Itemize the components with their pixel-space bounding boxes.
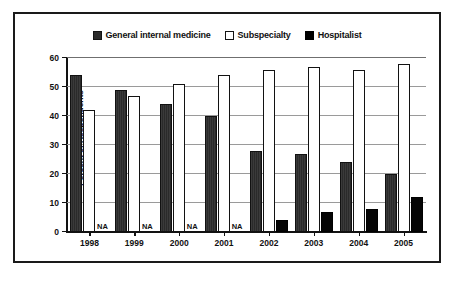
x-tick-mark-1998 bbox=[89, 232, 90, 236]
x-tick-label-2001: 2001 bbox=[202, 238, 247, 248]
x-tick-mark-1999 bbox=[134, 232, 135, 236]
bar-hosp-2004[interactable] bbox=[366, 209, 378, 232]
bar-group-2002: 2002 bbox=[247, 58, 292, 232]
bar-group-1999: NA1999 bbox=[112, 58, 157, 232]
bars-row bbox=[336, 58, 381, 232]
bars-row: NA bbox=[67, 58, 112, 232]
x-tick-mark-2004 bbox=[359, 232, 360, 236]
plot-area: 0102030405060 NA1998NA1999NA2000NA200120… bbox=[67, 58, 426, 232]
bar-gim-2002[interactable] bbox=[250, 151, 262, 232]
bar-gim-2005[interactable] bbox=[385, 174, 397, 232]
bars-row: NA bbox=[157, 58, 202, 232]
bar-group-2003: 2003 bbox=[291, 58, 336, 232]
bar-hosp-2005[interactable] bbox=[411, 197, 423, 232]
bar-gim-2000[interactable] bbox=[160, 104, 172, 232]
legend-swatch-hospitalist bbox=[305, 31, 314, 40]
bars-row bbox=[381, 58, 426, 232]
bar-group-2004: 2004 bbox=[336, 58, 381, 232]
x-tick-mark-2000 bbox=[179, 232, 180, 236]
bar-sub-1998[interactable] bbox=[83, 110, 95, 232]
legend-swatch-general-internal-medicine bbox=[93, 31, 102, 40]
bar-sub-2003[interactable] bbox=[308, 67, 320, 232]
bar-group-2000: NA2000 bbox=[157, 58, 202, 232]
legend-swatch-subspecialty bbox=[225, 31, 234, 40]
bar-hosp-2003[interactable] bbox=[321, 212, 333, 232]
x-tick-mark-2001 bbox=[224, 232, 225, 236]
y-tick-label-60: 60 bbox=[50, 53, 59, 63]
legend-label-subspecialty: Subspecialty bbox=[238, 30, 291, 40]
x-tick-label-2005: 2005 bbox=[381, 238, 426, 248]
y-tick-label-10: 10 bbox=[50, 198, 59, 208]
bars-row bbox=[291, 58, 336, 232]
y-tick-label-30: 30 bbox=[50, 140, 59, 150]
bar-gim-2004[interactable] bbox=[340, 162, 352, 232]
bars-row: NA bbox=[112, 58, 157, 232]
y-tick-label-50: 50 bbox=[50, 82, 59, 92]
x-tick-label-2003: 2003 bbox=[291, 238, 336, 248]
legend-label-general-internal-medicine: General internal medicine bbox=[106, 30, 211, 40]
legend-entry-hospitalist: Hospitalist bbox=[305, 30, 362, 40]
bar-sub-1999[interactable] bbox=[128, 96, 140, 232]
y-tick-label-40: 40 bbox=[50, 111, 59, 121]
x-tick-label-2004: 2004 bbox=[336, 238, 381, 248]
chart-legend: General internal medicine Subspecialty H… bbox=[15, 30, 439, 40]
x-tick-label-1999: 1999 bbox=[112, 238, 157, 248]
bar-gim-2003[interactable] bbox=[295, 154, 307, 232]
bar-sub-2001[interactable] bbox=[218, 75, 230, 232]
na-label-2000-hosp: NA bbox=[186, 223, 198, 233]
x-tick-label-2002: 2002 bbox=[247, 238, 292, 248]
x-tick-mark-2002 bbox=[269, 232, 270, 236]
bar-gim-2001[interactable] bbox=[205, 116, 217, 232]
bar-group-2005: 2005 bbox=[381, 58, 426, 232]
bar-sub-2005[interactable] bbox=[398, 64, 410, 232]
chart-figure-frame: General internal medicine Subspecialty H… bbox=[13, 12, 441, 263]
bar-sub-2000[interactable] bbox=[173, 84, 185, 232]
na-label-1999-hosp: NA bbox=[141, 223, 153, 233]
bar-group-1998: NA1998 bbox=[67, 58, 112, 232]
x-tick-label-2000: 2000 bbox=[157, 238, 202, 248]
bar-group-2001: NA2001 bbox=[202, 58, 247, 232]
bar-gim-1999[interactable] bbox=[115, 90, 127, 232]
y-tick-label-0: 0 bbox=[54, 227, 59, 237]
bar-sub-2002[interactable] bbox=[263, 70, 275, 232]
legend-entry-subspecialty: Subspecialty bbox=[225, 30, 291, 40]
bar-sub-2004[interactable] bbox=[353, 70, 365, 232]
na-label-2001-hosp: NA bbox=[231, 223, 243, 233]
bar-gim-1998[interactable] bbox=[70, 75, 82, 232]
x-tick-label-1998: 1998 bbox=[67, 238, 112, 248]
legend-entry-general-internal-medicine: General internal medicine bbox=[93, 30, 211, 40]
x-tick-mark-2005 bbox=[404, 232, 405, 236]
bar-hosp-2002[interactable] bbox=[276, 220, 288, 232]
bars-row: NA bbox=[202, 58, 247, 232]
x-tick-mark-2003 bbox=[314, 232, 315, 236]
na-label-1998-hosp: NA bbox=[96, 223, 108, 233]
y-tick-label-20: 20 bbox=[50, 169, 59, 179]
bars-row bbox=[247, 58, 292, 232]
legend-label-hospitalist: Hospitalist bbox=[318, 30, 362, 40]
